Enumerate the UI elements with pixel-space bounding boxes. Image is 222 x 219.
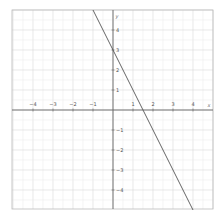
x-tick-label: −4 — [29, 101, 36, 107]
graph-plot: −4−3−2−11234 4321−1−2−3−4 x y — [0, 0, 222, 219]
y-tick-label: 1 — [116, 87, 119, 93]
y-tick-label: −2 — [116, 147, 123, 153]
x-tick-label: −2 — [69, 101, 76, 107]
x-tick-label: 1 — [131, 101, 134, 107]
y-tick-label: 3 — [116, 47, 119, 53]
y-tick-label: −4 — [116, 187, 123, 193]
y-tick-label: −1 — [116, 127, 123, 133]
x-tick-label: 4 — [191, 101, 194, 107]
x-tick-label: 3 — [171, 101, 174, 107]
y-tick-label: −3 — [116, 167, 123, 173]
x-tick-label: −3 — [49, 101, 56, 107]
x-tick-label: 2 — [151, 101, 154, 107]
y-tick-label: 4 — [116, 27, 119, 33]
x-tick-label: −1 — [89, 101, 96, 107]
x-axis-label: x — [207, 102, 211, 108]
y-tick-label: 2 — [116, 67, 119, 73]
